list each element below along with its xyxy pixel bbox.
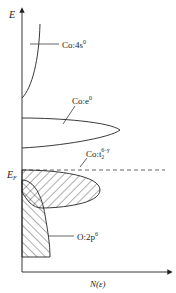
co-t2-leader: [80, 158, 87, 167]
co-e-label: Co:e0: [72, 95, 92, 106]
o-2p-label: O:2p6: [77, 231, 98, 242]
co-e-leader: [63, 106, 75, 124]
x-axis-label: N(ε): [89, 279, 106, 289]
co-4s-label: Co:4s0: [62, 39, 86, 50]
co-e-band: [22, 118, 120, 148]
co-4s-band: [22, 24, 40, 98]
y-axis-label: E: [8, 9, 15, 20]
band-diagram: E Co:4s0 Co:e0 Co:t26−y EF O:2p6 N(ε): [0, 0, 176, 293]
co-t2-label: Co:t26−y: [86, 147, 110, 160]
co-t2-band: [22, 170, 100, 208]
fermi-level-label: EF: [6, 169, 17, 181]
